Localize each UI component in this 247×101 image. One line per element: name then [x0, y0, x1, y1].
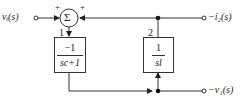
input-terminal: [34, 16, 38, 20]
plus-sign-left: +: [55, 3, 60, 12]
input-label: vᵢ(s): [2, 12, 19, 22]
output-label-top: −i₂(s): [208, 12, 232, 22]
output-label-bottom: −v₁(s): [208, 85, 233, 95]
output-terminal-top: [202, 16, 206, 20]
block1-transfer-function: −1 sc+1: [54, 37, 86, 73]
junction-node-bottom: [156, 89, 161, 94]
block1-numerator: −1: [62, 43, 79, 55]
output-terminal-bottom: [202, 89, 206, 93]
block2-transfer-function: 1 sl: [143, 37, 174, 73]
block2-denominator: sl: [152, 55, 165, 68]
sigma-symbol: Σ: [64, 12, 70, 23]
plus-sign-right: +: [80, 3, 85, 12]
block2-numerator: 1: [153, 43, 164, 55]
block1-denominator: sc+1: [57, 55, 83, 68]
